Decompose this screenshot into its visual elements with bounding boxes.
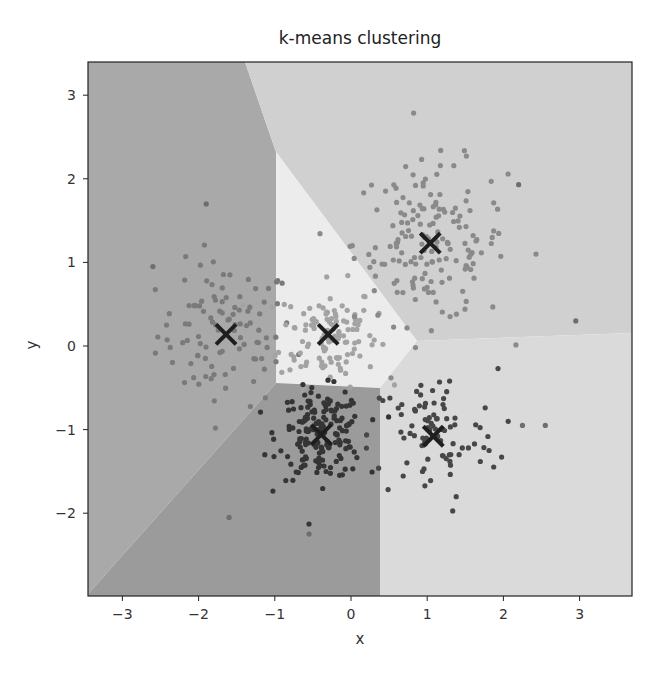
data-point xyxy=(370,469,375,474)
data-point xyxy=(325,378,330,383)
data-point xyxy=(457,452,462,457)
data-point xyxy=(305,405,310,410)
data-point xyxy=(371,259,376,264)
data-point xyxy=(278,448,283,453)
data-point xyxy=(412,255,417,260)
data-point xyxy=(425,457,430,462)
data-point xyxy=(380,342,385,347)
data-point xyxy=(303,442,308,447)
data-point xyxy=(426,290,431,295)
data-point xyxy=(417,203,422,208)
data-point xyxy=(413,183,418,188)
data-point xyxy=(413,261,418,266)
data-point xyxy=(401,435,406,440)
data-point xyxy=(520,423,525,428)
data-point xyxy=(182,278,187,283)
data-point xyxy=(237,307,242,312)
data-point xyxy=(418,383,423,388)
data-point xyxy=(411,208,416,213)
data-point xyxy=(462,148,467,153)
data-point xyxy=(298,405,303,410)
data-point xyxy=(182,380,187,385)
data-point xyxy=(392,382,397,387)
data-point xyxy=(201,309,206,314)
data-point xyxy=(573,318,578,323)
data-point xyxy=(290,399,295,404)
data-point xyxy=(165,337,170,342)
data-point xyxy=(168,345,173,350)
data-point xyxy=(344,429,349,434)
data-point xyxy=(462,307,467,312)
data-point xyxy=(237,346,242,351)
data-point xyxy=(311,316,316,321)
data-point xyxy=(442,406,447,411)
data-point xyxy=(224,295,229,300)
data-point xyxy=(329,408,334,413)
x-tick-label: 3 xyxy=(575,606,584,622)
data-point xyxy=(440,309,445,314)
data-point xyxy=(238,321,243,326)
data-point xyxy=(516,182,521,187)
data-point xyxy=(437,257,442,262)
data-point xyxy=(279,370,284,375)
data-point xyxy=(438,163,443,168)
data-point xyxy=(352,314,357,319)
data-point xyxy=(191,375,196,380)
data-point xyxy=(361,308,366,313)
data-point xyxy=(227,272,232,277)
data-point xyxy=(448,247,453,252)
data-point xyxy=(490,235,495,240)
data-point xyxy=(453,206,458,211)
data-point xyxy=(414,389,419,394)
data-point xyxy=(352,256,357,261)
data-point xyxy=(479,250,484,255)
data-point xyxy=(373,245,378,250)
data-point xyxy=(317,231,322,236)
x-tick-label: −3 xyxy=(112,606,133,622)
data-point xyxy=(251,356,256,361)
y-tick-label: −2 xyxy=(40,505,76,521)
data-point xyxy=(345,308,350,313)
data-point xyxy=(491,200,496,205)
data-point xyxy=(466,445,471,450)
data-point xyxy=(328,465,333,470)
data-point xyxy=(376,466,381,471)
data-point xyxy=(451,441,456,446)
data-point xyxy=(307,306,312,311)
data-point xyxy=(356,322,361,327)
data-point xyxy=(451,163,456,168)
data-point xyxy=(307,399,312,404)
data-point xyxy=(430,388,435,393)
data-point xyxy=(301,457,306,462)
data-point xyxy=(489,179,494,184)
data-point xyxy=(424,262,429,267)
data-point xyxy=(464,154,469,159)
data-point xyxy=(361,190,366,195)
data-point xyxy=(262,367,267,372)
data-point xyxy=(223,386,228,391)
data-point xyxy=(421,466,426,471)
data-point xyxy=(204,201,209,206)
data-point xyxy=(430,259,435,264)
data-point xyxy=(269,430,274,435)
data-point xyxy=(285,454,290,459)
data-point xyxy=(195,353,200,358)
data-point xyxy=(350,466,355,471)
data-point xyxy=(423,177,428,182)
data-point xyxy=(417,403,422,408)
data-point xyxy=(394,200,399,205)
data-point xyxy=(439,268,444,273)
data-point xyxy=(454,494,459,499)
data-point xyxy=(467,208,472,213)
data-point xyxy=(262,452,267,457)
data-point xyxy=(321,464,326,469)
data-point xyxy=(410,217,415,222)
data-point xyxy=(445,241,450,246)
data-point xyxy=(308,390,313,395)
data-point xyxy=(400,290,405,295)
data-point xyxy=(334,319,339,324)
data-point xyxy=(334,355,339,360)
data-point xyxy=(303,328,308,333)
data-point xyxy=(425,285,430,290)
data-point xyxy=(348,384,353,389)
